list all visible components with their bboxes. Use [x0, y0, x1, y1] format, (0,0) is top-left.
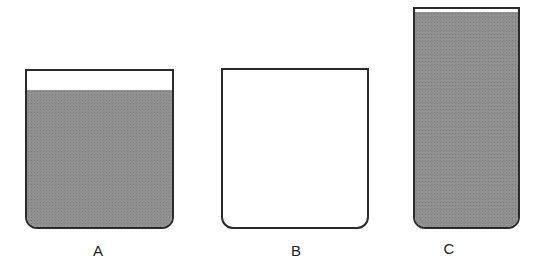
container-b	[221, 68, 369, 229]
container-c	[413, 7, 520, 229]
liquid-c	[415, 12, 518, 227]
label-c: C	[439, 240, 459, 257]
label-b: B	[286, 242, 306, 259]
liquid-a	[27, 90, 172, 227]
container-a	[25, 69, 174, 229]
label-a: A	[88, 242, 108, 259]
